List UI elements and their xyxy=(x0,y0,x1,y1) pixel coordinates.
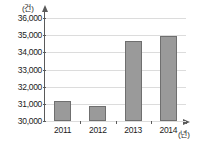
y-axis-tick-label: 32,000 xyxy=(2,82,42,92)
x-axis-tick-label: 2011 xyxy=(49,125,77,135)
y-axis-tick-mark xyxy=(43,87,46,88)
y-axis-tick-mark xyxy=(43,121,46,122)
x-axis-tick-label: 2013 xyxy=(119,125,147,135)
y-axis-tick-mark xyxy=(43,18,46,19)
bar xyxy=(54,101,71,121)
y-axis-tick-mark xyxy=(43,52,46,53)
y-axis-tick-labels: 30,00031,00032,00033,00034,00035,00036,0… xyxy=(0,0,42,156)
x-axis-tick-label: 2014 xyxy=(154,125,182,135)
bar xyxy=(89,106,106,121)
x-axis-tick-mark xyxy=(151,121,152,124)
gridline xyxy=(45,18,186,19)
y-axis-tick-label: 30,000 xyxy=(2,116,42,126)
y-axis-arrow-icon xyxy=(42,5,48,12)
x-axis-tick-mark xyxy=(80,121,81,124)
bar xyxy=(160,36,177,121)
y-axis-tick-label: 36,000 xyxy=(2,13,42,23)
y-axis-tick-label: 34,000 xyxy=(2,47,42,57)
bar-chart: (건) (년) 30,00031,00032,00033,00034,00035… xyxy=(0,0,202,156)
x-axis-tick-mark xyxy=(116,121,117,124)
bar xyxy=(125,41,142,121)
y-axis-tick-mark xyxy=(43,35,46,36)
x-axis-tick-label: 2012 xyxy=(84,125,112,135)
x-axis-tick-mark xyxy=(186,121,187,124)
y-axis-tick-label: 31,000 xyxy=(2,99,42,109)
y-axis-tick-label: 35,000 xyxy=(2,30,42,40)
y-axis-tick-label: 33,000 xyxy=(2,65,42,75)
plot-area xyxy=(45,18,186,121)
y-axis-tick-mark xyxy=(43,70,46,71)
y-axis-tick-mark xyxy=(43,104,46,105)
